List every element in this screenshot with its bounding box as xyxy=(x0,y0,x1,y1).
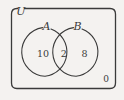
venn-diagram-figure: U A B 10 2 8 0 xyxy=(0,0,124,100)
count-outside: 0 xyxy=(103,74,109,84)
count-b-only: 8 xyxy=(81,48,87,59)
set-b-circle xyxy=(53,28,98,77)
count-intersection: 2 xyxy=(61,48,67,59)
count-a-only: 10 xyxy=(37,48,49,59)
set-b-label: B xyxy=(72,20,81,33)
set-a-label: A xyxy=(42,20,51,33)
universal-set-label: U xyxy=(16,5,26,18)
